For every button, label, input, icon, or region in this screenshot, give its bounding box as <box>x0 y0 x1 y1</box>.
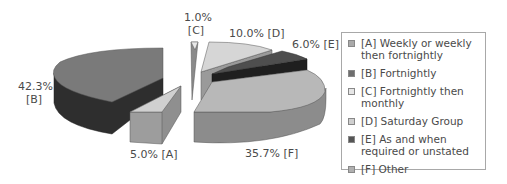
legend-label-a: [A] Weekly or weekly then fortnightly <box>361 37 481 61</box>
label-f: 35.7% [F] <box>245 147 298 160</box>
label-a: 5.0% [A] <box>130 148 178 161</box>
label-c-percent: 1.0% <box>184 11 208 24</box>
label-d: 10.0% [D] <box>229 27 285 40</box>
label-b-percent: 42.3% <box>18 80 50 93</box>
legend-item-b: [B] Fortnightly <box>348 67 481 79</box>
label-c: 1.0% [C] <box>184 11 208 37</box>
legend-item-d: [D] Saturday Group <box>348 115 481 127</box>
label-b-key: [B] <box>18 93 50 106</box>
legend-label-c: [C] Fortnightly then monthly <box>361 85 481 109</box>
legend-swatch-f <box>348 166 355 173</box>
label-b: 42.3% [B] <box>18 80 50 106</box>
legend-item-e: [E] As and when required or unstated <box>348 133 481 157</box>
label-c-key: [C] <box>184 24 208 37</box>
legend-swatch-a <box>348 40 355 47</box>
legend-item-f: [F] Other <box>348 163 481 175</box>
legend-swatch-d <box>348 118 355 125</box>
legend-item-c: [C] Fortnightly then monthly <box>348 85 481 109</box>
legend-label-f: [F] Other <box>361 163 408 175</box>
chart-legend: [A] Weekly or weekly then fortnightly [B… <box>341 32 486 170</box>
label-e: 6.0% [E] <box>292 38 339 51</box>
slice-c <box>191 42 198 100</box>
legend-swatch-b <box>348 70 355 77</box>
legend-label-e: [E] As and when required or unstated <box>361 133 481 157</box>
legend-item-a: [A] Weekly or weekly then fortnightly <box>348 37 481 61</box>
legend-swatch-c <box>348 88 355 95</box>
legend-label-b: [B] Fortnightly <box>361 67 436 79</box>
legend-label-d: [D] Saturday Group <box>361 115 463 127</box>
legend-swatch-e <box>348 136 355 143</box>
